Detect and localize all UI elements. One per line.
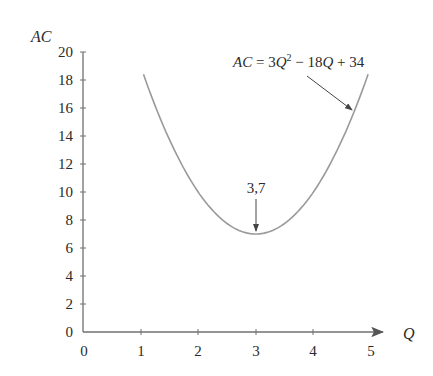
y-tick-20: 20 [58, 44, 73, 60]
x-tick-2: 2 [194, 343, 202, 359]
y-tick-6: 6 [66, 240, 74, 256]
x-tick-3: 3 [252, 343, 260, 359]
y-tick-18: 18 [58, 72, 73, 88]
y-tick-16: 16 [58, 100, 74, 116]
y-axis-title: AC [30, 28, 52, 45]
x-tick-1: 1 [137, 343, 145, 359]
y-tick-2: 2 [66, 296, 74, 312]
x-tick-5: 5 [367, 343, 375, 359]
x-tick-4: 4 [309, 343, 317, 359]
y-tick-14: 14 [58, 128, 74, 144]
y-tick-4: 4 [66, 268, 74, 284]
x-axis-title: Q [403, 325, 415, 342]
formula-arrow-icon [307, 76, 352, 110]
x-tick-0: 0 [80, 343, 88, 359]
y-tick-12: 12 [58, 156, 73, 172]
y-tick-8: 8 [66, 212, 74, 228]
min-point-label: 3,7 [247, 180, 266, 196]
axes [83, 52, 383, 332]
y-tick-10: 10 [58, 184, 73, 200]
y-tick-0: 0 [66, 324, 74, 340]
formula-label: AC = 3Q2 − 18Q + 34 [232, 52, 365, 70]
y-tick-labels: 20 18 16 14 12 10 8 6 4 2 0 [58, 44, 74, 340]
ac-chart: AC Q 20 18 16 14 12 10 8 6 4 2 0 [0, 0, 433, 376]
x-tick-labels: 0 1 2 3 4 5 [80, 343, 375, 359]
